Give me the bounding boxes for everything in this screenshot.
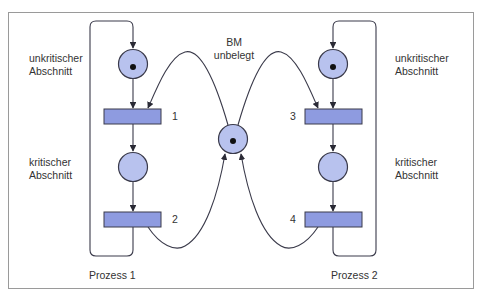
transition-1-number: 1 <box>172 110 178 122</box>
transition-2 <box>104 212 161 227</box>
label-line: unkritischer <box>395 52 449 65</box>
label-line: unbelegt <box>213 49 255 62</box>
transition-3 <box>305 109 362 124</box>
label-p1-uncritical: unkritischer Abschnitt <box>29 52 83 78</box>
label-line: Abschnitt <box>395 65 449 78</box>
label-process-1: Prozess 1 <box>89 269 136 282</box>
transition-2-number: 2 <box>172 213 178 225</box>
token-p1-uncritical <box>130 64 136 70</box>
label-p2-critical: kritischer Abschnitt <box>395 156 438 182</box>
label-line: kritischer <box>29 156 72 169</box>
token-bm <box>230 138 236 144</box>
transition-1 <box>104 109 161 124</box>
label-bm: BM unbelegt <box>213 36 255 62</box>
label-p2-uncritical: unkritischer Abschnitt <box>395 52 449 78</box>
place-p2-critical <box>319 153 348 182</box>
transition-4 <box>305 212 362 227</box>
label-line: Abschnitt <box>395 169 438 182</box>
label-line: Abschnitt <box>29 169 72 182</box>
label-process-2: Prozess 2 <box>331 269 378 282</box>
label-line: Abschnitt <box>29 65 83 78</box>
transition-4-number: 4 <box>290 213 296 225</box>
label-line: unkritischer <box>29 52 83 65</box>
label-line: kritischer <box>395 156 438 169</box>
transition-3-number: 3 <box>290 110 296 122</box>
place-p1-critical <box>119 153 148 182</box>
token-p2-uncritical <box>330 64 336 70</box>
label-line: BM <box>213 36 255 49</box>
label-p1-critical: kritischer Abschnitt <box>29 156 72 182</box>
